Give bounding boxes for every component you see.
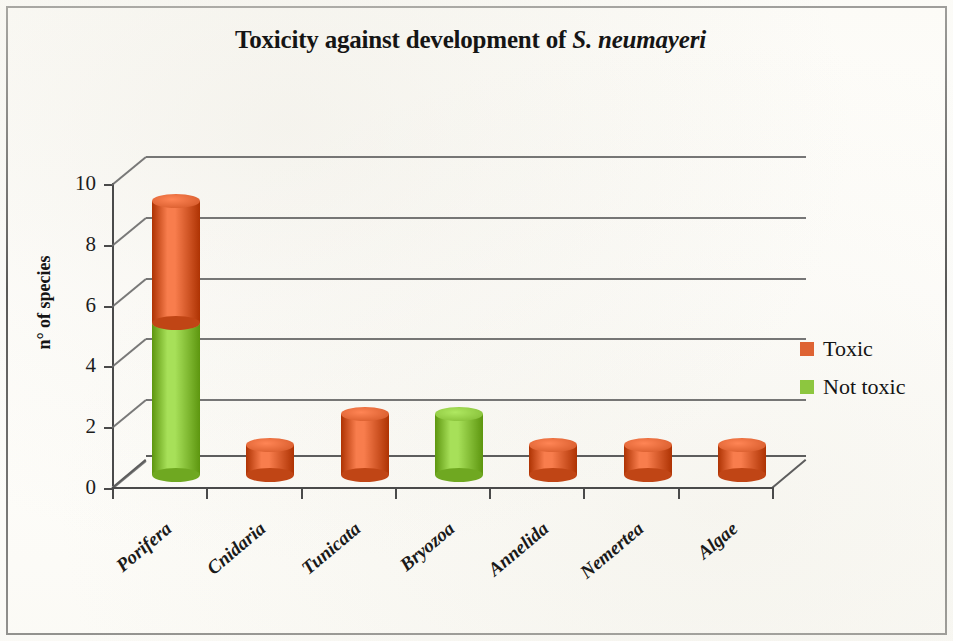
bar-segment[interactable]: [341, 414, 389, 475]
bar-segment-bottom-ellipse: [529, 468, 577, 482]
x-axis-tick: [678, 489, 680, 499]
bar-segment-bottom-ellipse: [152, 316, 200, 330]
bar-segment[interactable]: [152, 201, 200, 323]
bar-segment[interactable]: [529, 445, 577, 475]
bar-segment-bottom-ellipse: [718, 468, 766, 482]
gridline-depth-connector: [111, 339, 146, 369]
gridline-depth-connector: [111, 278, 146, 308]
bar-segment-body: [152, 201, 200, 323]
y-axis-tick-label: 6: [50, 293, 96, 318]
bar-segment[interactable]: [246, 445, 294, 475]
x-axis-tick: [395, 489, 397, 499]
gridline-depth-connector: [111, 156, 146, 186]
y-axis-tick-label: 10: [50, 171, 96, 196]
bar-segment-top-ellipse: [624, 438, 672, 452]
bar-segment-top-ellipse: [529, 438, 577, 452]
floor-right-edge: [771, 459, 806, 489]
legend-item[interactable]: Not toxic: [800, 368, 906, 406]
gridline-depth-connector: [111, 217, 146, 247]
floor-left-edge: [111, 459, 146, 489]
plot-area: n° of species 0246810 PoriferaCnidariaTu…: [0, 0, 941, 629]
y-axis-tick-label: 0: [50, 475, 96, 500]
gridline-depth-connector: [111, 399, 146, 429]
bar-segment[interactable]: [718, 445, 766, 475]
bar-segment[interactable]: [152, 323, 200, 475]
x-axis-tick: [583, 489, 585, 499]
chart-legend: ToxicNot toxic: [800, 330, 906, 406]
legend-label: Not toxic: [823, 374, 906, 400]
x-axis-tick: [206, 489, 208, 499]
y-axis-line: [112, 183, 114, 486]
bar-segment-bottom-ellipse: [624, 468, 672, 482]
y-axis-tick-label: 4: [50, 353, 96, 378]
bar-segment-body: [341, 414, 389, 475]
chart-figure: Toxicity against development of S. neuma…: [0, 0, 953, 641]
bar-segment-bottom-ellipse: [152, 468, 200, 482]
legend-swatch-icon: [800, 342, 814, 356]
x-axis-tick: [772, 489, 774, 499]
bar-segment-bottom-ellipse: [341, 468, 389, 482]
legend-label: Toxic: [823, 336, 873, 362]
bar-segment-bottom-ellipse: [246, 468, 294, 482]
legend-swatch-icon: [800, 380, 814, 394]
bar-segment-top-ellipse: [718, 438, 766, 452]
bar-segment[interactable]: [435, 414, 483, 475]
bar-segment-body: [152, 323, 200, 475]
x-axis-tick: [489, 489, 491, 499]
legend-item[interactable]: Toxic: [800, 330, 906, 368]
bar-segment-top-ellipse: [341, 407, 389, 421]
bar-segment-bottom-ellipse: [435, 468, 483, 482]
bar-segment-top-ellipse: [246, 438, 294, 452]
x-axis-tick: [112, 489, 114, 499]
bar-segment-body: [435, 414, 483, 475]
x-axis-tick: [301, 489, 303, 499]
bar-segment[interactable]: [624, 445, 672, 475]
y-axis-tick-label: 8: [50, 232, 96, 257]
y-axis-tick-label: 2: [50, 414, 96, 439]
